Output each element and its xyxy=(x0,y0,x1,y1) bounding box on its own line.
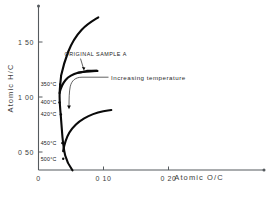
temp-dot-400 xyxy=(58,101,60,103)
curve-middle-branch xyxy=(60,71,98,93)
annotation-increasing-temperature: Increasing temperature xyxy=(111,74,186,81)
y-axis-title: Atomic H/C xyxy=(6,64,15,113)
temp-dot-350 xyxy=(59,83,61,85)
y-tick-group xyxy=(39,42,43,152)
temp-dot-450 xyxy=(61,142,63,144)
curve-upper-branch xyxy=(61,17,98,76)
temp-label-450: 450°C xyxy=(41,140,57,146)
y-axis-endpoint xyxy=(37,5,40,8)
axis-group xyxy=(37,5,266,172)
x-tick-label-0: 0 xyxy=(36,175,41,182)
annotation-original-sample-a-arrowhead xyxy=(82,67,86,71)
x-tick-label-010: 0 10 xyxy=(95,175,111,182)
temp-label-420: 420°C xyxy=(41,111,57,117)
annotation-original-sample-a: ORIGINAL SAMPLE A xyxy=(65,51,127,57)
y-tick-label-150: 1 50 xyxy=(18,39,34,46)
temp-label-400: 400°C xyxy=(41,99,57,105)
curve-lower-branch xyxy=(63,110,111,151)
curve-trunk xyxy=(60,76,73,170)
x-axis-endpoint xyxy=(263,169,266,172)
chart-canvas: 1 50 1 00 0 50 0 0 10 0 20 Atomic O/C At… xyxy=(0,0,270,198)
annotation-increasing-temperature-arrowhead xyxy=(67,105,71,109)
x-axis-title: Atomic O/C xyxy=(174,173,223,182)
temp-dot-500 xyxy=(62,158,64,160)
temp-label-350: 350°C xyxy=(41,81,57,87)
annotation-increasing-temperature-leader xyxy=(69,77,109,106)
y-tick-label-050: 0 50 xyxy=(18,149,34,156)
chart-figure: 1 50 1 00 0 50 0 0 10 0 20 Atomic O/C At… xyxy=(0,0,270,198)
temp-dot-420 xyxy=(60,113,62,115)
y-tick-label-100: 1 00 xyxy=(18,94,34,101)
temp-label-500: 500°C xyxy=(41,156,57,162)
